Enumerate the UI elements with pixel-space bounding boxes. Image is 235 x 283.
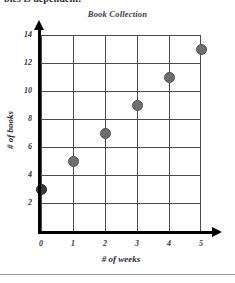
gridline-horizontal — [41, 35, 201, 36]
x-axis-tick-label: 5 — [191, 239, 211, 248]
x-axis-title: # of weeks — [41, 254, 201, 264]
gridline-vertical — [169, 35, 170, 231]
data-point — [164, 72, 175, 83]
gridline-vertical — [200, 35, 201, 231]
gridline-horizontal — [41, 147, 201, 148]
gridline-horizontal — [41, 175, 201, 176]
x-axis-tick-label: 1 — [63, 239, 83, 248]
x-axis-tick-label: 3 — [127, 239, 147, 248]
data-point — [196, 44, 207, 55]
x-axis-tick-label: 4 — [159, 239, 179, 248]
y-axis-tick-label: 4 — [8, 170, 32, 179]
data-point — [132, 100, 143, 111]
gridline-horizontal — [41, 119, 201, 120]
chart-title: Book Collection — [0, 9, 235, 19]
gridline-vertical — [73, 35, 74, 231]
scatter-plot-figure: Book Collection 2468101214 012345 # of w… — [0, 0, 235, 271]
x-axis-tick-label: 0 — [31, 239, 51, 248]
x-axis-arrow-icon — [212, 227, 222, 237]
y-axis-tick-label: 12 — [8, 58, 32, 67]
data-point — [68, 156, 79, 167]
gridline-vertical — [137, 35, 138, 231]
gridline-vertical — [41, 35, 42, 231]
y-axis-arrow-icon — [34, 20, 44, 30]
data-point — [100, 128, 111, 139]
y-axis-tick-label: 2 — [8, 198, 32, 207]
gridline-horizontal — [41, 203, 201, 204]
y-axis-line — [38, 28, 41, 234]
x-axis-line — [38, 231, 214, 234]
gridline-horizontal — [41, 63, 201, 64]
bottom-divider — [0, 274, 235, 275]
y-axis-tick-label: 14 — [8, 30, 32, 39]
y-axis-title: # of books — [5, 90, 15, 170]
x-axis-tick-label: 2 — [95, 239, 115, 248]
gridline-horizontal — [41, 91, 201, 92]
plot-area — [41, 35, 201, 231]
